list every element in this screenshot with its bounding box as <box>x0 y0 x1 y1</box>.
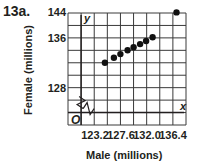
axes <box>68 15 184 125</box>
y-axis-letter: y <box>84 12 90 24</box>
data-point <box>173 9 179 15</box>
x-tick-136-4: 136.4 <box>156 129 190 141</box>
grid-lines <box>68 13 186 125</box>
data-point <box>117 51 123 57</box>
data-point <box>102 60 108 66</box>
data-point <box>137 41 143 47</box>
data-point <box>124 47 130 53</box>
data-point <box>130 44 136 50</box>
x-axis-label: Male (millions) <box>86 149 162 161</box>
origin-label: O <box>71 113 80 127</box>
scatter-plot <box>0 0 206 166</box>
data-point <box>143 38 149 44</box>
x-axis-letter: x <box>180 100 186 112</box>
data-point <box>149 34 155 40</box>
data-point <box>111 55 117 61</box>
